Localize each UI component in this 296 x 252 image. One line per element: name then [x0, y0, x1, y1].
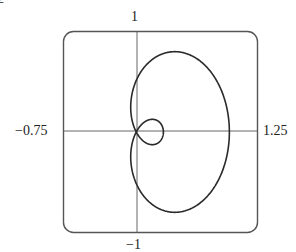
curve-line — [131, 52, 230, 213]
x-min-tick-label: −0.75 — [15, 124, 47, 138]
y-max-tick-label: 1 — [131, 10, 138, 24]
x-max-tick-label: 1.25 — [263, 124, 288, 138]
y-min-tick-label: −1 — [126, 238, 141, 252]
plot-frame — [64, 32, 258, 233]
